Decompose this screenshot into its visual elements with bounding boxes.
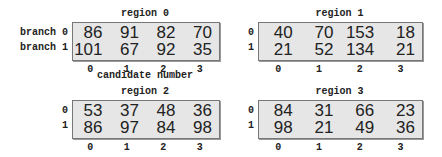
table-cell: 86 — [69, 24, 103, 41]
column-label: 3 — [391, 142, 411, 153]
table-cell: 21 — [300, 119, 334, 136]
column-label: 1 — [309, 64, 329, 75]
table-cell: 67 — [105, 41, 139, 58]
table-cell: 53 — [69, 102, 103, 119]
region-title: region 2 — [72, 86, 218, 97]
table-cell: 98 — [259, 119, 293, 136]
table-cell: 31 — [300, 102, 334, 119]
column-label: 2 — [153, 142, 173, 153]
column-label: 2 — [350, 142, 370, 153]
column-label: 3 — [190, 142, 210, 153]
table-cell: 18 — [381, 24, 415, 41]
row-label: 0 — [0, 105, 68, 116]
region-title: region 3 — [258, 86, 421, 97]
x-axis-label: candidate number — [72, 70, 218, 81]
column-label: 1 — [117, 142, 137, 153]
table-cell: 97 — [105, 119, 139, 136]
row-label: 0 — [186, 27, 254, 38]
table-cell: 84 — [142, 119, 176, 136]
table-cell: 153 — [340, 24, 374, 41]
column-label: 2 — [350, 64, 370, 75]
table-cell: 52 — [300, 41, 334, 58]
table-cell: 91 — [105, 24, 139, 41]
table-cell: 37 — [105, 102, 139, 119]
table-cell: 92 — [142, 41, 176, 58]
table-cell: 49 — [340, 119, 374, 136]
table-cell: 82 — [142, 24, 176, 41]
row-label: branch 0 — [0, 27, 68, 38]
row-label: 1 — [186, 42, 254, 53]
row-label: 0 — [186, 105, 254, 116]
table-cell: 48 — [142, 102, 176, 119]
table-cell: 134 — [340, 41, 374, 58]
table-cell: 70 — [300, 24, 334, 41]
column-label: 0 — [268, 142, 288, 153]
column-label: 0 — [268, 64, 288, 75]
table-cell: 40 — [259, 24, 293, 41]
table-cell: 36 — [381, 119, 415, 136]
table-cell: 21 — [381, 41, 415, 58]
table-cell: 21 — [259, 41, 293, 58]
row-label: 1 — [0, 120, 68, 131]
table-cell: 84 — [259, 102, 293, 119]
row-label: 1 — [186, 120, 254, 131]
table-cell: 86 — [69, 119, 103, 136]
region-title: region 0 — [72, 8, 218, 19]
column-label: 1 — [309, 142, 329, 153]
column-label: 3 — [391, 64, 411, 75]
table-cell: 23 — [381, 102, 415, 119]
table-cell: 66 — [340, 102, 374, 119]
region-title: region 1 — [258, 8, 421, 19]
table-cell: 101 — [69, 41, 103, 58]
row-label: branch 1 — [0, 42, 68, 53]
column-label: 0 — [80, 142, 100, 153]
